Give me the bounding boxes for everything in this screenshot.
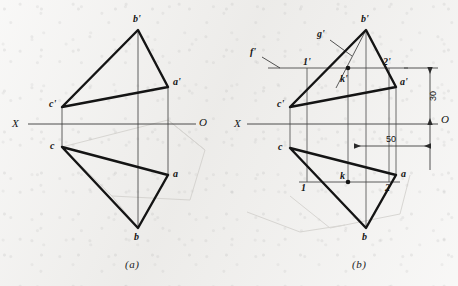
panel-b-label-a: a bbox=[401, 168, 406, 179]
panel-a-label-b: b bbox=[134, 231, 139, 242]
panel-b-label-a-prime: a' bbox=[400, 76, 408, 87]
dim-30-arrow-top bbox=[427, 67, 432, 74]
panel-b-point-k bbox=[346, 180, 351, 185]
panel-b-point-k-prime bbox=[346, 66, 351, 71]
panel-b-label-f-prime: f' bbox=[250, 46, 256, 57]
panel-b-frontal-triangle bbox=[290, 30, 396, 107]
panel-a-label-c-prime: c' bbox=[49, 98, 56, 109]
panel-a-axis-label-x: X bbox=[12, 117, 19, 129]
panel-b-label-b-prime: b' bbox=[361, 13, 369, 24]
panel-a-axis-label-o: O bbox=[199, 116, 207, 128]
panel-b-label-one: 1 bbox=[301, 182, 306, 193]
panel-a-drawing bbox=[28, 30, 196, 228]
dim-50-arrow-right bbox=[424, 143, 431, 148]
dimension-50 bbox=[354, 124, 431, 170]
panel-a-frontal-triangle bbox=[62, 30, 168, 107]
panel-a-label-c: c bbox=[50, 140, 54, 151]
panel-a-label-b-prime: b' bbox=[133, 13, 141, 24]
dimension-label-30: 30 bbox=[428, 91, 438, 101]
panel-a-horizontal-triangle bbox=[62, 147, 168, 228]
panel-a-label-a-prime: a' bbox=[173, 76, 181, 87]
panel-b-label-g-prime: g' bbox=[317, 28, 325, 39]
panel-a-label-a: a bbox=[173, 168, 178, 179]
dimension-label-50: 50 bbox=[386, 134, 396, 144]
panel-b-label-k-prime: k' bbox=[340, 73, 348, 84]
panel-b-label-two-prime: 2' bbox=[383, 56, 391, 67]
panel-b-axis-label-o: O bbox=[441, 113, 449, 125]
panel-b-label-c-prime: c' bbox=[277, 98, 284, 109]
panel-b-caption: (b) bbox=[352, 258, 366, 270]
panel-b-label-two: 2 bbox=[385, 182, 390, 193]
panel-a-caption: (a) bbox=[125, 258, 139, 270]
ghost-bleedthrough-artwork bbox=[62, 120, 410, 232]
panel-b-label-k: k bbox=[340, 170, 345, 181]
panel-b-axis-label-x: X bbox=[234, 117, 241, 129]
panel-b-leader-f-prime bbox=[262, 57, 280, 68]
panel-b-label-one-prime: 1' bbox=[303, 56, 311, 67]
dim-30-arrow-bottom bbox=[427, 118, 432, 125]
panel-b-label-b: b bbox=[362, 231, 367, 242]
dim-50-arrow-left bbox=[354, 143, 361, 148]
panel-b-drawing bbox=[247, 30, 438, 228]
panel-b-label-c: c bbox=[278, 141, 282, 152]
